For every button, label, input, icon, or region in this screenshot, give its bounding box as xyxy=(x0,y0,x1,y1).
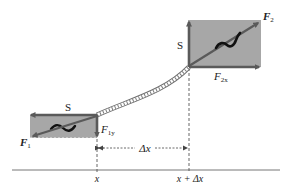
force-f2-label: F2 xyxy=(262,10,274,24)
delta-x-label: Δx xyxy=(138,142,150,154)
tension-s-left-label: S xyxy=(65,101,71,113)
x-tick-label: x xyxy=(94,173,100,184)
tension-s-right-label: S xyxy=(177,39,183,51)
force-f1-label: F1 xyxy=(19,136,31,150)
delta-x-dimension: Δx xyxy=(98,142,188,154)
force-f1y-label: F1y xyxy=(100,123,115,137)
x-plus-delta-x-tick-label: x + Δx xyxy=(176,173,204,184)
force-f2x-label: F2x xyxy=(213,70,228,84)
string-element-diagram: Δx S F1 F1y xyxy=(0,0,291,191)
right-element: S F2 F2x xyxy=(177,10,274,84)
left-element: S F1 F1y xyxy=(19,101,115,150)
